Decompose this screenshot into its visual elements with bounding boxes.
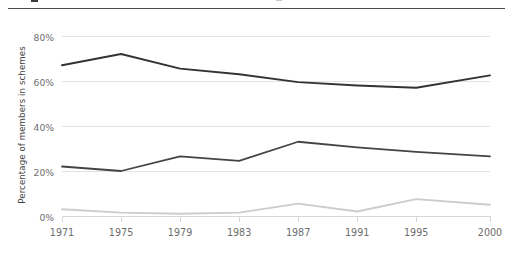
line-series-middle — [62, 142, 490, 171]
x-tick-label-1987: 1987 — [286, 227, 310, 238]
line-series-bottom — [62, 199, 490, 214]
x-tick-2000 — [490, 216, 491, 222]
x-tick-label-1991: 1991 — [345, 227, 369, 238]
x-tick-1975 — [121, 216, 122, 222]
x-tick-label-1979: 1979 — [168, 227, 192, 238]
x-tick-1995 — [416, 216, 417, 222]
x-tick-label-1983: 1983 — [227, 227, 251, 238]
x-tick-label-1995: 1995 — [404, 227, 428, 238]
line-series-top — [62, 54, 490, 88]
x-tick-label-1975: 1975 — [109, 227, 133, 238]
x-tick-1987 — [298, 216, 299, 222]
chart-figure: Percentage of members in schemes 80% 60%… — [0, 0, 507, 260]
x-tick-label-2000: 2000 — [478, 227, 502, 238]
x-tick-1971 — [62, 216, 63, 222]
x-tick-1979 — [180, 216, 181, 222]
x-tick-1991 — [357, 216, 358, 222]
x-tick-1983 — [239, 216, 240, 222]
series-layer — [0, 0, 507, 260]
x-tick-label-1971: 1971 — [50, 227, 74, 238]
